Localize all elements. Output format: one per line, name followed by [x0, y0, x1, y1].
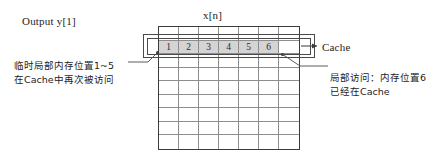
cache-inner-rectangle [147, 38, 311, 55]
output-label: Output y[1] [22, 14, 76, 28]
memory-cell [179, 95, 199, 109]
memory-cell [159, 122, 179, 136]
memory-cell [259, 108, 279, 122]
memory-cell [199, 81, 219, 95]
memory-cell [279, 81, 299, 95]
left-annotation-line2: 在Cache中再次被访问 [14, 73, 114, 87]
memory-cell [219, 108, 239, 122]
memory-cell [179, 135, 199, 149]
memory-cell [279, 108, 299, 122]
memory-cell [259, 122, 279, 136]
memory-cell [239, 95, 259, 109]
left-annotation-line1: 临时局部内存位置1~5 [14, 59, 114, 73]
memory-cell [259, 68, 279, 82]
memory-cell [159, 135, 179, 149]
left-annotation: 临时局部内存位置1~5 在Cache中再次被访问 [14, 59, 114, 87]
memory-cell [279, 95, 299, 109]
memory-cell [199, 122, 219, 136]
memory-cell [199, 108, 219, 122]
memory-cell [219, 68, 239, 82]
memory-cell [179, 68, 199, 82]
memory-cell [159, 95, 179, 109]
memory-cell [159, 108, 179, 122]
diagram-canvas: Output y[1] x[n] 123456 临时局部内存位置1~5 在Cac… [0, 0, 445, 165]
memory-cell [239, 135, 259, 149]
memory-cell [239, 108, 259, 122]
cache-label: Cache [322, 40, 350, 54]
right-annotation-line2: 已经在Cache [330, 85, 426, 99]
memory-cell [159, 81, 179, 95]
memory-cell [199, 68, 219, 82]
memory-cell [219, 122, 239, 136]
memory-cell [179, 81, 199, 95]
memory-cell [179, 122, 199, 136]
memory-cell [259, 135, 279, 149]
memory-cell [259, 81, 279, 95]
memory-cell [179, 108, 199, 122]
right-annotation-line1: 局部访问：内存位置6 [330, 71, 426, 85]
memory-cell [199, 135, 219, 149]
right-annotation: 局部访问：内存位置6 已经在Cache [330, 71, 426, 99]
memory-cell [279, 68, 299, 82]
memory-cell [239, 68, 259, 82]
memory-cell [219, 95, 239, 109]
memory-cell [279, 122, 299, 136]
memory-cell [279, 135, 299, 149]
array-title-label: x[n] [203, 8, 222, 22]
memory-cell [219, 81, 239, 95]
memory-cell [199, 95, 219, 109]
memory-cell [159, 68, 179, 82]
memory-cell [259, 95, 279, 109]
memory-cell [239, 122, 259, 136]
memory-cell [239, 81, 259, 95]
memory-cell [219, 135, 239, 149]
